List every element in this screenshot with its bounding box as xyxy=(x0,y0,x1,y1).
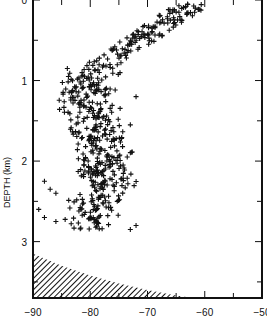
y-axis-label-text: DEPTH (km) xyxy=(2,157,12,208)
hatched-region xyxy=(33,254,193,298)
y-tick-label: 2 xyxy=(21,156,27,167)
x-tick-label: −50 xyxy=(254,307,267,318)
x-tick-label: −80 xyxy=(82,307,99,318)
y-axis-label: DEPTH (km) xyxy=(0,150,14,210)
hatched-area xyxy=(33,254,193,298)
y-tick-label: 0 xyxy=(21,0,27,6)
y-tick-label: 1 xyxy=(21,76,27,87)
x-tick-label: −70 xyxy=(139,307,156,318)
x-tick-label: −90 xyxy=(25,307,42,318)
scatter-chart: −90−80−70−60−500123 xyxy=(0,0,267,322)
x-tick-label: −60 xyxy=(196,307,213,318)
y-tick-label: 3 xyxy=(21,237,27,248)
scatter-points xyxy=(36,2,204,233)
